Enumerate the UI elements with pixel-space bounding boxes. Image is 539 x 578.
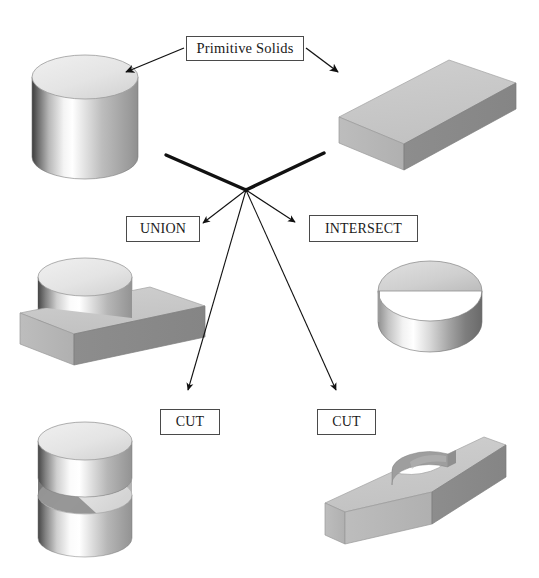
label-cut-left: CUT: [160, 409, 220, 435]
label-cut-left-text: CUT: [176, 414, 205, 430]
box-to-hub: [246, 153, 324, 190]
thick-input-connectors: [166, 153, 324, 190]
cut-cylinder-result-solid: [38, 422, 132, 557]
intersect-result-solid: [378, 261, 482, 352]
label-intersect-text: INTERSECT: [325, 221, 402, 237]
csg-diagram-graphic: [0, 0, 539, 578]
primitive-solids-to-box: [306, 48, 338, 72]
diagram-canvas: Primitive Solids UNION INTERSECT CUT CUT: [0, 0, 539, 578]
operation-hub: [244, 188, 248, 192]
hub-to-union: [203, 190, 246, 223]
cut-block-result-solid: [325, 437, 506, 544]
label-cut-right-text: CUT: [332, 414, 361, 430]
primitive-solids-to-cylinder: [126, 48, 184, 72]
label-union-text: UNION: [140, 221, 186, 237]
cylinder-to-hub: [166, 155, 246, 190]
label-primitive-solids: Primitive Solids: [186, 36, 304, 61]
label-primitive-solids-text: Primitive Solids: [196, 40, 293, 57]
cylinder-primitive: [32, 55, 138, 179]
label-cut-right: CUT: [317, 409, 376, 435]
label-union: UNION: [126, 216, 200, 242]
box-primitive: [339, 60, 516, 170]
label-intersect: INTERSECT: [309, 215, 418, 242]
union-result-solid: [20, 258, 205, 365]
